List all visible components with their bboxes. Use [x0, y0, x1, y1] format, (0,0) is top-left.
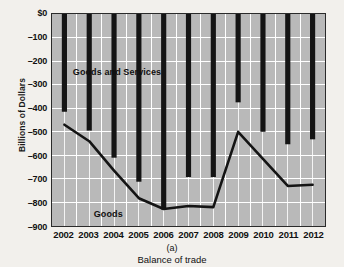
bar	[211, 14, 216, 177]
bar	[111, 14, 116, 158]
plot-area: Goods and Services Goods	[51, 13, 326, 227]
balance-of-trade-figure: Billions of Dollars $0–100–200–300–400–5…	[0, 0, 344, 267]
y-tick-label: –900	[28, 222, 47, 232]
bar	[236, 14, 241, 102]
series-label-goods: Goods	[94, 209, 123, 219]
y-tick-label: –200	[28, 56, 47, 66]
bar	[161, 14, 166, 210]
x-tick-label: 2004	[103, 229, 123, 240]
bar	[260, 14, 265, 132]
y-tick-label: –800	[28, 198, 47, 208]
x-tick-label: 2012	[303, 229, 323, 240]
bar	[62, 14, 67, 112]
bar	[186, 14, 191, 177]
y-tick-label: –300	[28, 79, 47, 89]
x-tick-label: 2007	[178, 229, 198, 240]
y-tick-label: –700	[28, 174, 47, 184]
y-tick-label: –600	[28, 151, 47, 161]
x-axis-tick-labels: 2002200320042005200620072008200920102011…	[51, 229, 326, 243]
y-tick-label: –100	[28, 32, 47, 42]
series-label-goods-and-services: Goods and Services	[73, 67, 161, 77]
y-tick-label: $0	[37, 8, 47, 18]
bar	[136, 14, 141, 182]
x-tick-label: 2009	[228, 229, 248, 240]
x-tick-label: 2002	[53, 229, 73, 240]
x-tick-label: 2005	[128, 229, 148, 240]
chart-canvas	[52, 14, 325, 226]
y-tick-label: –500	[28, 127, 47, 137]
x-tick-label: 2008	[203, 229, 223, 240]
y-axis-title: Billions of Dollars	[17, 45, 27, 185]
x-tick-label: 2006	[153, 229, 173, 240]
x-tick-label: 2003	[78, 229, 98, 240]
x-tick-label: 2011	[279, 229, 299, 240]
bar	[310, 14, 315, 139]
x-tick-label: 2010	[253, 229, 273, 240]
y-tick-label: –400	[28, 103, 47, 113]
figure-caption: Balance of trade	[0, 254, 344, 265]
panel-label: (a)	[0, 243, 344, 253]
bar	[285, 14, 290, 144]
